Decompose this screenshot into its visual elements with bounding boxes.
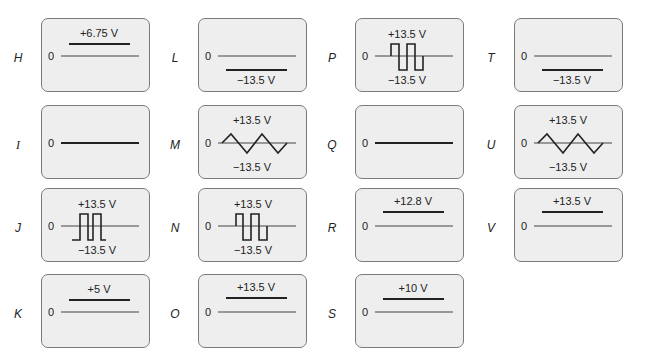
- level-label: +13.5 V: [553, 195, 592, 207]
- bottom-label: −13.5 V: [78, 244, 117, 256]
- panel-letter: K: [0, 307, 36, 321]
- top-label: +13.5 V: [388, 28, 427, 40]
- square-waveform: 0 +13.5 V −13.5 V: [355, 18, 464, 92]
- dc-negative-waveform: 0 −13.5 V: [514, 18, 623, 92]
- level-label: −13.5 V: [553, 74, 592, 86]
- panel-U: U 0 +13.5 V −13.5 V: [473, 105, 633, 185]
- panel-letter: N: [157, 221, 193, 235]
- panel-letter: L: [157, 51, 193, 65]
- level-label: +6.75 V: [80, 27, 119, 39]
- zero-waveform: 0: [41, 105, 150, 179]
- zero-label: 0: [362, 306, 368, 318]
- zero-label: 0: [205, 137, 211, 149]
- panel-H: H 0 +6.75 V: [0, 18, 160, 98]
- dc-positive-waveform: 0 +13.5 V: [198, 274, 307, 348]
- zero-label: 0: [205, 220, 211, 232]
- top-label: +13.5 V: [78, 198, 117, 210]
- panel-O: O 0 +13.5 V: [157, 274, 317, 354]
- panel-letter: Q: [314, 138, 350, 152]
- zero-label: 0: [205, 50, 211, 62]
- level-label: +5 V: [88, 283, 112, 295]
- square-wave-trace: [236, 214, 267, 240]
- panel-S: S 0 +10 V: [314, 274, 474, 354]
- top-label: +13.5 V: [234, 198, 273, 210]
- dc-negative-waveform: 0 −13.5 V: [198, 18, 307, 92]
- level-label: +10 V: [398, 282, 428, 294]
- zero-label: 0: [521, 220, 527, 232]
- panel-letter: U: [473, 138, 509, 152]
- panel-R: R 0 +12.8 V: [314, 188, 474, 268]
- zero-label: 0: [48, 306, 54, 318]
- zero-label: 0: [362, 50, 368, 62]
- level-label: +13.5 V: [237, 281, 276, 293]
- zero-label: 0: [362, 220, 368, 232]
- panel-K: K 0 +5 V: [0, 274, 160, 354]
- top-label: +13.5 V: [549, 114, 588, 126]
- panel-letter: M: [157, 138, 193, 152]
- panel-P: P 0 +13.5 V −13.5 V: [314, 18, 474, 98]
- level-label: +12.8 V: [394, 195, 433, 207]
- zero-label: 0: [48, 50, 54, 62]
- bottom-label: −13.5 V: [549, 161, 588, 173]
- dc-positive-waveform: 0 +5 V: [41, 274, 150, 348]
- top-label: +13.5 V: [233, 114, 272, 126]
- panel-V: V 0 +13.5 V: [473, 188, 633, 268]
- zero-label: 0: [521, 137, 527, 149]
- dc-positive-waveform: 0 +6.75 V: [41, 18, 150, 92]
- bottom-label: −13.5 V: [234, 244, 273, 256]
- panel-letter: J: [0, 221, 36, 235]
- pulse-waveform: 0 +13.5 V −13.5 V: [41, 188, 150, 262]
- zero-label: 0: [48, 220, 54, 232]
- bottom-label: −13.5 V: [233, 161, 272, 173]
- panel-letter: P: [314, 51, 350, 65]
- square-wave-trace: [391, 44, 423, 70]
- panel-letter: I: [0, 138, 36, 153]
- triangle-waveform: 0 +13.5 V −13.5 V: [198, 105, 307, 179]
- zero-label: 0: [362, 137, 368, 149]
- zero-label: 0: [521, 50, 527, 62]
- pulse-wave-trace: [72, 214, 106, 240]
- panel-J: J 0 +13.5 V −13.5 V: [0, 188, 160, 268]
- dc-positive-waveform: 0 +12.8 V: [355, 188, 464, 262]
- panel-letter: H: [0, 51, 36, 65]
- zero-label: 0: [48, 137, 54, 149]
- zero-label: 0: [205, 306, 211, 318]
- triangle-waveform: 0 +13.5 V −13.5 V: [514, 105, 623, 179]
- panel-letter: T: [473, 51, 509, 65]
- panel-Q: Q 0: [314, 105, 474, 185]
- panel-letter: O: [157, 307, 193, 321]
- bottom-label: −13.5 V: [388, 74, 427, 86]
- panel-letter: S: [314, 307, 350, 321]
- dc-positive-waveform: 0 +10 V: [355, 274, 464, 348]
- panel-letter: R: [314, 221, 350, 235]
- square-waveform: 0 +13.5 V −13.5 V: [198, 188, 307, 262]
- panel-letter: V: [473, 221, 509, 235]
- zero-waveform: 0: [355, 105, 464, 179]
- panel-N: N 0 +13.5 V −13.5 V: [157, 188, 317, 268]
- panel-T: T 0 −13.5 V: [473, 18, 633, 98]
- panel-L: L 0 −13.5 V: [157, 18, 317, 98]
- level-label: −13.5 V: [237, 74, 276, 86]
- panel-I: I 0: [0, 105, 160, 185]
- panel-M: M 0 +13.5 V −13.5 V: [157, 105, 317, 185]
- dc-positive-waveform: 0 +13.5 V: [514, 188, 623, 262]
